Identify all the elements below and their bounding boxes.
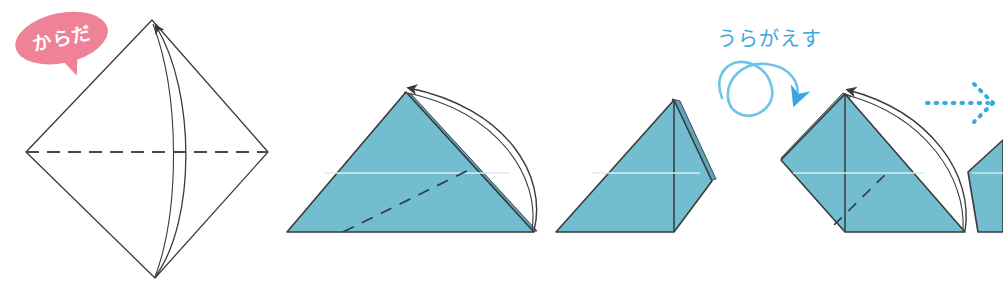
dotted-progress-arrow [927,84,993,122]
step-3-folded-wing-shape [556,99,716,232]
step-4-flipped-wing-shape [781,90,966,232]
dotted-arrow-head-lower [974,103,993,122]
flip-loop-arrow-icon [719,62,797,116]
dotted-arrow-head-upper [974,84,993,103]
wing-paper-step5-partial [968,140,1003,232]
turn-over-hint: うらがえす [717,27,822,116]
origami-diagram-page: からだ うらがえす [0,0,1003,281]
origami-instruction-canvas: からだ うらがえす [0,0,1003,281]
step-2-folded-triangle-left [287,88,537,232]
turn-over-label: うらがえす [717,27,822,51]
triangle-paper-step2 [287,92,534,232]
wing-paper-step4 [781,94,965,232]
step-5-next-step-partial [968,140,1003,232]
